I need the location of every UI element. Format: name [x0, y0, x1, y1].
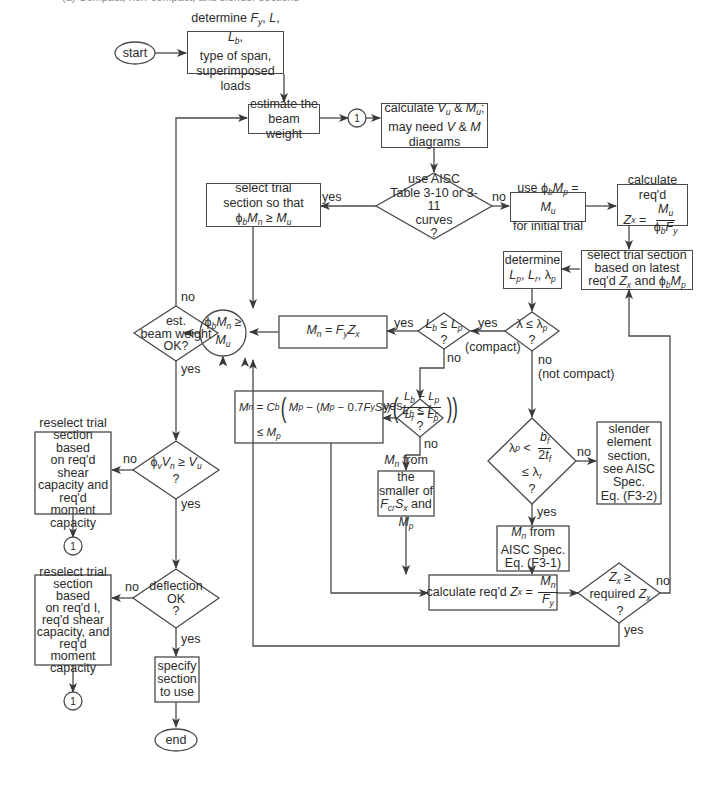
slender-section-line3: section,: [607, 450, 650, 463]
slender-yes-label: yes: [537, 505, 556, 519]
connector-1-label: 1: [354, 111, 360, 126]
start-terminal: start: [115, 44, 155, 62]
connector-1-shear: 1: [64, 538, 82, 554]
estimate-weight-box: estimate the beam weight: [248, 104, 320, 134]
start-label: start: [123, 46, 147, 61]
use-aisc-line3: curves: [416, 214, 453, 228]
estimate-weight-line1: estimate the: [250, 97, 318, 112]
reselect-defl-line2: section based: [35, 578, 111, 602]
mn-lateral-torsional-formula: Mn = Cb(Mp − (Mp − 0.7FySx)(Lb − LpLr − …: [235, 391, 383, 443]
shear-yes-label: yes: [181, 497, 200, 511]
calc-req-zx2-text: calculate req'd Zx = MnFy: [427, 575, 560, 610]
zx-required-line2: required Zx: [589, 588, 650, 605]
shear-check-line1: ϕvVn ≥ Vu: [150, 456, 201, 473]
reselect-shear-line2: section based: [35, 429, 111, 454]
connector-1-shear-label: 1: [70, 539, 76, 554]
use-aisc-no-label: no: [492, 190, 506, 204]
reselect-deflection-box: reselect trial section based on req'd I,…: [35, 575, 111, 665]
reselect-shear-line6: capacity: [50, 517, 96, 530]
deflection-yes-label: yes: [181, 632, 200, 646]
lambda-no-label: no: [538, 353, 552, 367]
lambda-yes-label: yes: [478, 316, 497, 330]
deflection-line1: deflection: [149, 580, 203, 593]
specify-section-box: specify section to use: [155, 657, 199, 702]
use-phi-mp-line2: for initial trial: [513, 219, 583, 234]
zx-required-line3: ?: [617, 605, 624, 618]
shear-no-label: no: [123, 452, 137, 466]
select-trial-phi-box: select trial section so that ϕbMn ≥ Mu: [206, 183, 321, 227]
use-aisc-line1: use AISC: [408, 173, 460, 187]
mn-f31-line3: Eq. (F3-1): [505, 557, 561, 571]
use-aisc-decision: use AISC Table 3-10 or 3-11 curves ?: [384, 180, 484, 234]
reselect-shear-line4: capacity and: [38, 479, 108, 492]
reselect-shear-line5: req'd moment: [35, 492, 111, 517]
lb-lp-line1: Lb ≤ Lp: [425, 318, 462, 334]
mn-smaller-line2: smaller of: [379, 485, 433, 499]
calc-req-zx2-box: calculate req'd Zx = MnFy: [429, 575, 557, 610]
mn-f31-line1: Mn from: [511, 526, 555, 544]
slender-section-line4: see AISC: [603, 463, 655, 476]
mn-f31-line2: AISC Spec.: [501, 544, 566, 558]
beam-weight-line1: est.: [166, 315, 186, 328]
shear-check-line2: ?: [173, 473, 180, 486]
select-latest-line2: based on latest: [595, 262, 680, 275]
determine-inputs-line2: type of span,: [200, 49, 272, 64]
slender-section-line1: slender: [609, 423, 650, 436]
select-trial-phi-line3: ϕbMn ≥ Mu: [236, 211, 292, 230]
formula-line1: Mn = Cb(Mp − (Mp − 0.7FySx)(Lb − LpLr − …: [239, 390, 462, 425]
connector-1-deflection: 1: [64, 693, 82, 709]
calc-vu-mu-line3: diagrams: [409, 135, 460, 150]
lambda-line2: ?: [529, 334, 536, 346]
flowchart: (a) Compact, non-compact, and slender se…: [0, 0, 709, 786]
zx-required-decision: Zx ≥ required Zx ?: [585, 575, 655, 613]
reselect-defl-line7: capacity: [50, 662, 96, 674]
calc-req-zx-formula: Zx = MuϕbFy: [624, 203, 682, 238]
connector-1-deflection-label: 1: [70, 694, 76, 709]
use-phi-mp-line1: use ϕbMp = Mu: [511, 181, 585, 219]
reselect-shear-line3: on req'd shear: [35, 454, 111, 479]
slender-check-line3: ?: [529, 483, 536, 496]
not-compact-label: (not compact): [538, 367, 614, 381]
lb-lr-no-label: no: [424, 437, 438, 451]
determine-inputs-box: determine Fy, L, Lb, type of span, super…: [187, 31, 284, 74]
deflection-line3: ?: [173, 605, 180, 618]
select-trial-phi-line2: section so that: [223, 196, 304, 211]
calc-vu-mu-box: calculate Vu & Mu; may need V & M diagra…: [381, 103, 488, 148]
determine-lp-line1: determine: [505, 253, 561, 268]
lb-lp-no-label: no: [447, 351, 461, 365]
calc-req-zx-line1: calculate req'd: [618, 173, 687, 203]
lambda-line1: λ ≤ λp: [516, 318, 547, 334]
deflection-ok-decision: deflection OK ?: [146, 580, 206, 618]
specify-line3: to use: [160, 686, 194, 699]
end-label: end: [166, 733, 187, 748]
determine-inputs-line3: superimposed loads: [188, 64, 283, 94]
lb-lp-decision: Lb ≤ Lp ?: [420, 320, 468, 344]
mn-smaller-line3: FcrSx and Mp: [378, 498, 434, 533]
slender-section-line2: element: [607, 436, 651, 449]
zx-no-label: no: [656, 574, 670, 588]
mn-fyzx-box: Mn = FyZx: [279, 316, 387, 348]
mn-fyzx-text: Mn = FyZx: [306, 323, 359, 342]
use-aisc-yes-label: yes: [322, 190, 341, 204]
zx-yes-label: yes: [624, 623, 643, 637]
slender-check-line1: λp < bf2tf: [509, 431, 555, 466]
connector-1: 1: [348, 110, 366, 126]
deflection-no-label: no: [125, 580, 139, 594]
end-terminal: end: [155, 731, 197, 749]
lb-lp-yes-label: yes: [394, 316, 413, 330]
use-aisc-line2: Table 3-10 or 3-11: [384, 187, 484, 214]
determine-lp-line2: Lp, Lr, λp: [509, 268, 555, 287]
mn-smaller-box: Mn from the smaller of FcrSx and Mp: [378, 471, 434, 516]
select-latest-line1: select trial section: [587, 249, 686, 262]
select-latest-line3: req'd Zx and ϕbMp: [588, 275, 685, 292]
slender-check-line2: ≤ λr: [522, 466, 541, 483]
slender-section-box: slender element section, see AISC Spec. …: [597, 422, 661, 504]
beam-weight-no-label: no: [181, 290, 195, 304]
figure-caption: (a) Compact, non-compact, and slender se…: [62, 0, 299, 3]
slender-check-decision: λp < bf2tf ≤ λr ?: [500, 440, 564, 486]
estimate-weight-line2: beam weight: [249, 112, 319, 142]
select-trial-phi-line1: select trial: [235, 181, 291, 196]
calc-vu-mu-line2: may need V & M: [388, 120, 480, 135]
reselect-defl-line6: req'd moment: [35, 638, 111, 662]
reselect-shear-box: reselect trial section based on req'd sh…: [35, 432, 111, 514]
